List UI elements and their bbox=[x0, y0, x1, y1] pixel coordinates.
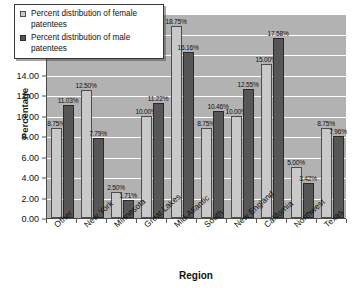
bar-value-label: 1.71% bbox=[119, 192, 137, 199]
y-tick-label: 10.00 bbox=[16, 112, 39, 122]
bar-group: 18.75%16.16% bbox=[167, 14, 197, 218]
x-axis-labels: OtherNew YorkMinnesotaGreat LakesMid-Atl… bbox=[46, 222, 346, 270]
bar-value-label: 12.55% bbox=[237, 81, 258, 88]
bar-female bbox=[171, 26, 182, 218]
y-tick-label: 4.00 bbox=[21, 173, 39, 183]
y-tick-label: 14.00 bbox=[16, 71, 39, 81]
bar-value-label: 8.75% bbox=[317, 120, 335, 127]
y-tick-label: 12.00 bbox=[16, 91, 39, 101]
bar-group: 5.00%3.42% bbox=[287, 14, 317, 218]
bar-male bbox=[153, 103, 164, 218]
legend-swatch-male-icon bbox=[20, 35, 26, 41]
bar-male bbox=[273, 38, 284, 218]
bar-value-label: 2.50% bbox=[107, 184, 125, 191]
bar-female bbox=[231, 116, 242, 219]
legend-label-male: Percent distribution of male patentees bbox=[31, 33, 157, 54]
bar-group: 15.00%17.58% bbox=[257, 14, 287, 218]
x-axis-title: Region bbox=[46, 270, 346, 281]
y-tick-label: 2.00 bbox=[21, 194, 39, 204]
x-tick-mark bbox=[346, 219, 347, 223]
bar-value-label: 11.22% bbox=[148, 95, 169, 102]
bar-value-label: 18.75% bbox=[165, 18, 186, 25]
legend-swatch-female-icon bbox=[20, 11, 26, 17]
bar-male bbox=[243, 89, 254, 218]
bar-male bbox=[183, 52, 194, 218]
y-tick-label: 8.00 bbox=[21, 132, 39, 142]
y-tick-label: 6.00 bbox=[21, 153, 39, 163]
bar-value-label: 5.00% bbox=[287, 159, 305, 166]
bar-value-label: 16.16% bbox=[177, 44, 198, 51]
bar-male bbox=[213, 111, 224, 218]
bar-value-label: 12.50% bbox=[75, 82, 96, 89]
bar-value-label: 7.79% bbox=[89, 130, 107, 137]
legend-item-female: Percent distribution of female patentees bbox=[20, 9, 157, 30]
bar-male bbox=[333, 136, 344, 218]
bar-value-label: 11.03% bbox=[58, 97, 79, 104]
bar-group: 8.75%10.46% bbox=[197, 14, 227, 218]
bar-value-label: 7.96% bbox=[329, 128, 347, 135]
bar-value-label: 3.42% bbox=[299, 175, 317, 182]
bar-female bbox=[51, 128, 62, 218]
legend: Percent distribution of female patentees… bbox=[14, 4, 164, 59]
bar-group: 8.75%7.96% bbox=[317, 14, 347, 218]
bar-female bbox=[81, 90, 92, 218]
bar-chart: Percentage 0.002.004.006.008.0010.0012.0… bbox=[0, 0, 358, 288]
legend-label-female: Percent distribution of female patentees bbox=[31, 9, 157, 30]
legend-item-male: Percent distribution of male patentees bbox=[20, 33, 157, 54]
bar-value-label: 17.58% bbox=[267, 30, 288, 37]
bar-male bbox=[63, 105, 74, 218]
bar-group: 10.00%12.55% bbox=[227, 14, 257, 218]
y-tick-label: 0.00 bbox=[21, 214, 39, 224]
